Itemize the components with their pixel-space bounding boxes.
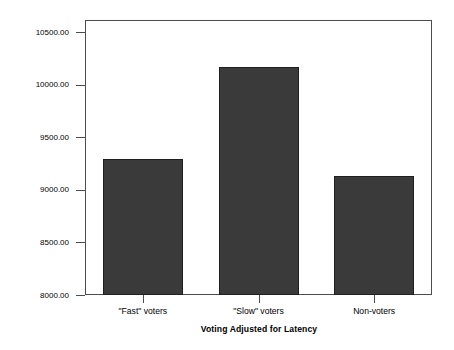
y-axis-tick-label: 8500.00 (0, 238, 69, 247)
bar-chart: Understand Issues (Latency to Respond ms… (0, 0, 454, 350)
y-axis-tick (76, 32, 85, 33)
y-axis-tick (76, 137, 85, 138)
y-axis-tick-label: 10500.00 (0, 28, 69, 37)
x-axis-title: Voting Adjusted for Latency (85, 324, 433, 334)
x-axis-tick (259, 295, 260, 303)
y-axis-tick-label: 9000.00 (0, 185, 69, 194)
y-axis-tick-label: 9500.00 (0, 133, 69, 142)
bar (219, 67, 299, 295)
bar (334, 176, 414, 295)
bar (103, 159, 183, 295)
y-axis-tick (76, 190, 85, 191)
y-axis-tick (76, 295, 85, 296)
y-axis-tick (76, 242, 85, 243)
y-axis-tick-label: 10000.00 (0, 80, 69, 89)
x-axis-tick-label: "Fast" voters (83, 306, 203, 317)
y-axis-tick (76, 85, 85, 86)
x-axis-tick-label: "Slow" voters (199, 306, 319, 317)
y-axis-tick-label: 8000.00 (0, 291, 69, 300)
x-axis-tick (374, 295, 375, 303)
x-axis-tick-label: Non-voters (314, 306, 434, 317)
x-axis-tick (143, 295, 144, 303)
